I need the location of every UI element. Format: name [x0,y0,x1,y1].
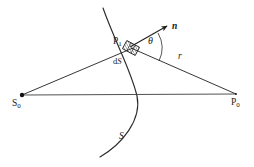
angle-arc [158,33,162,61]
figure-canvas [0,0,254,167]
observation-point-marker [235,93,237,95]
label-surface-point-subscript: 1 [118,40,122,48]
label-surface-point-P1: P1 [113,37,122,47]
diffraction-geometry-figure: S0 P0 P1 dS n r S θ [0,0,254,167]
label-normal-vector-n: n [172,22,177,32]
label-angle-theta: θ [148,36,153,46]
label-area-element-dS: dS [113,57,122,66]
label-source-point-S0: S0 [12,99,21,109]
axis-baseline [22,94,236,95]
label-observation-point-subscript: 0 [236,101,240,109]
diffracted-ray-line [131,48,236,94]
label-surface-S: S [119,132,124,142]
label-area-element-symbol: S [117,56,121,66]
label-distance-r: r [178,52,182,62]
label-source-point-subscript: 0 [17,102,21,110]
label-observation-point-P0: P0 [231,98,240,108]
source-point-marker [20,93,24,97]
